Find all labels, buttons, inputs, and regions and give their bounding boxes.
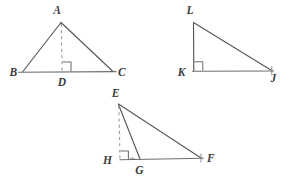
vertex-label-h: H <box>102 154 113 166</box>
triangle-egf-group: E H G F <box>102 87 215 177</box>
segment-lj <box>194 23 273 71</box>
vertex-label-b: B <box>9 66 18 78</box>
vertex-label-d: D <box>57 76 67 88</box>
vertex-label-k: K <box>177 66 187 78</box>
triangle-lkj-group: L K J <box>177 4 278 84</box>
segment-ac <box>61 23 113 72</box>
right-angle-mark-k <box>194 62 202 71</box>
altitude-ad-dashed <box>61 24 62 71</box>
vertex-label-e: E <box>111 87 120 99</box>
vertex-label-j: J <box>270 72 278 84</box>
figure-canvas: A B C D L K J <box>0 0 296 184</box>
vertex-label-g: G <box>135 164 144 176</box>
vertex-label-c: C <box>118 66 126 78</box>
right-angle-mark-d <box>63 62 71 71</box>
segment-ba <box>23 23 62 73</box>
triangle-abc-group: A B C D <box>9 4 127 88</box>
vertex-label-l: L <box>185 4 193 16</box>
altitude-eh-dashed <box>119 106 120 159</box>
geometry-figure: A B C D L K J <box>0 0 296 184</box>
right-angle-mark-h <box>121 151 129 159</box>
vertex-label-f: F <box>206 152 215 164</box>
segment-bc-base <box>19 72 117 73</box>
segment-ef <box>119 104 202 158</box>
vertex-label-a: A <box>52 4 61 16</box>
